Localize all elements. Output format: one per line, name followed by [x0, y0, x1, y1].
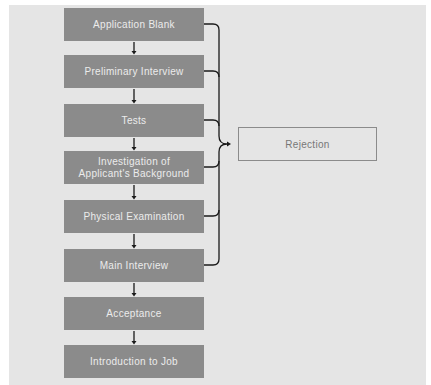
step-label: Introduction to Job — [90, 356, 178, 368]
step-acceptance: Acceptance — [64, 297, 204, 330]
rejection-label: Rejection — [285, 139, 329, 150]
step-label: Physical Examination — [83, 211, 184, 223]
rejection-connector — [204, 259, 219, 265]
rejection-connector — [204, 210, 219, 216]
arrowhead-icon — [132, 196, 137, 200]
arrowhead-icon — [132, 51, 137, 55]
step-tests: Tests — [64, 104, 204, 137]
rejection-connector — [204, 161, 219, 167]
step-label: Preliminary Interview — [84, 66, 183, 78]
arrowhead-icon — [132, 293, 137, 297]
arrowhead-icon — [132, 245, 137, 249]
step-application-blank: Application Blank — [64, 8, 204, 41]
rejection-connector — [204, 71, 219, 77]
rejection-connector — [204, 120, 219, 126]
step-background-investigation: Investigation of Applicant's Background — [64, 151, 204, 184]
rejection-arrowhead-icon — [227, 142, 231, 147]
step-label: Acceptance — [106, 308, 161, 320]
step-preliminary-interview: Preliminary Interview — [64, 55, 204, 88]
step-label: Tests — [122, 115, 147, 127]
arrowhead-icon — [132, 341, 137, 345]
step-label: Application Blank — [93, 19, 175, 31]
arrowhead-icon — [132, 147, 137, 151]
step-physical-examination: Physical Examination — [64, 200, 204, 233]
rejection-connector — [204, 24, 219, 30]
step-introduction-to-job: Introduction to Job — [64, 345, 204, 378]
rejection-box: Rejection — [238, 127, 377, 161]
step-label: Investigation of Applicant's Background — [75, 156, 193, 180]
brace-spine — [219, 30, 227, 259]
arrowhead-icon — [132, 100, 137, 104]
step-main-interview: Main Interview — [64, 249, 204, 282]
step-label: Main Interview — [100, 260, 169, 272]
